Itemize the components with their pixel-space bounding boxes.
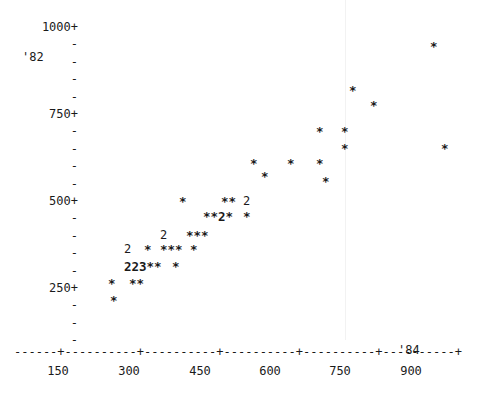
y-axis-minor-tick: - — [0, 144, 78, 155]
y-axis-minor-tick: - — [0, 74, 78, 85]
x-axis-tick-label: 450 — [187, 365, 213, 377]
data-point-mark: ** — [129, 278, 144, 289]
x-axis-line: ------+----------+----------+----------+… — [14, 346, 462, 358]
data-point-mark: *** — [186, 230, 209, 241]
data-point-mark: * — [108, 278, 116, 289]
y-axis-minor-tick: - — [0, 92, 78, 103]
y-axis-minor-tick: - — [0, 126, 78, 137]
data-point-mark: ** — [221, 196, 236, 207]
data-point-mark: * — [243, 211, 251, 222]
x-axis-tick-label: 900 — [398, 365, 424, 377]
data-point-mark: * — [287, 158, 295, 169]
data-point-mark: 223** — [124, 261, 162, 272]
data-point-mark: * — [322, 176, 330, 187]
character-scatter-plot: 1000+----750+----500+----250+--- '82 ***… — [0, 0, 481, 399]
data-point-mark: * — [316, 158, 324, 169]
x-axis-tick-label: 300 — [116, 365, 142, 377]
x-axis-tick-label: 600 — [257, 365, 283, 377]
y-axis-minor-tick: - — [0, 248, 78, 259]
data-point-mark: * — [349, 85, 357, 96]
y-axis-minor-tick: - — [0, 318, 78, 329]
x-axis-end-label: '84 — [398, 344, 420, 356]
data-point-mark: * — [190, 244, 198, 255]
data-point-mark: 2 — [243, 196, 250, 207]
data-point-mark: 2 — [160, 230, 167, 241]
y-axis-minor-tick: - — [0, 266, 78, 277]
data-point-mark: **2* — [203, 211, 233, 222]
y-axis-corner-label: '82 — [22, 52, 44, 63]
vertical-seam-artifact — [345, 0, 346, 340]
data-point-mark: 2 — [124, 244, 131, 255]
x-axis-tick-label: 150 — [45, 365, 71, 377]
y-axis-major-label: 500+ — [0, 196, 78, 207]
data-point-mark: * — [370, 100, 378, 111]
data-point-mark: * — [341, 126, 349, 137]
data-point-mark: * — [250, 158, 258, 169]
data-point-mark: * — [172, 261, 180, 272]
x-axis-tick-label: 750 — [327, 365, 353, 377]
data-point-mark: *** — [160, 244, 183, 255]
y-axis-minor-tick: - — [0, 39, 78, 50]
data-point-mark: * — [261, 171, 269, 182]
data-point-mark: * — [179, 196, 187, 207]
y-axis-minor-tick: - — [0, 213, 78, 224]
data-point-mark: * — [316, 126, 324, 137]
y-axis-minor-tick: - — [0, 161, 78, 172]
data-point-mark: * — [110, 295, 118, 306]
data-point-mark: * — [441, 143, 449, 154]
y-axis-minor-tick: - — [0, 231, 78, 242]
data-point-mark: * — [144, 244, 152, 255]
y-axis-major-label: 750+ — [0, 109, 78, 120]
data-point-mark: * — [341, 143, 349, 154]
y-axis-minor-tick: - — [0, 179, 78, 190]
y-axis-major-label: 1000+ — [0, 22, 78, 33]
y-axis-major-label: 250+ — [0, 283, 78, 294]
y-axis-minor-tick: - — [0, 300, 78, 311]
data-point-mark: * — [430, 41, 438, 52]
